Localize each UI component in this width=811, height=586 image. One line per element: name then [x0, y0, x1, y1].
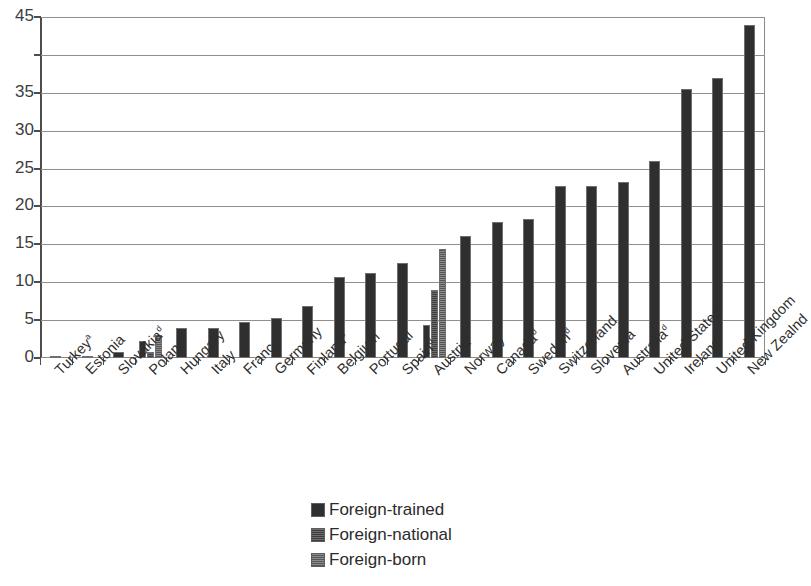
bar-foreign-trained: [681, 89, 692, 358]
legend-item: Foreign-trained: [311, 497, 452, 522]
legend-item: Foreign-national: [311, 522, 452, 547]
gridline: [40, 131, 765, 132]
y-axis-tick-label: 25: [0, 158, 34, 178]
chart-legend: Foreign-trainedForeign-nationalForeign-b…: [311, 497, 452, 572]
bar-foreign-trained: [239, 322, 250, 358]
y-axis-tick: [34, 16, 41, 18]
gridline: [40, 93, 765, 94]
legend-label: Foreign-national: [329, 525, 452, 545]
y-axis-tick-label: 15: [0, 233, 34, 253]
y-axis-tick: [34, 130, 41, 132]
y-axis-tick: [34, 243, 41, 245]
gridline: [40, 17, 765, 18]
y-axis-tick-label: 10: [0, 271, 34, 291]
y-axis-tick: [34, 205, 41, 207]
bar-foreign-trained: [744, 25, 755, 358]
y-axis-tick-label: 30: [0, 120, 34, 140]
legend-swatch-foreign-born: [311, 553, 325, 567]
bar-foreign-born: [439, 249, 446, 358]
y-axis-tick: [34, 319, 41, 321]
legend-item: Foreign-born: [311, 547, 452, 572]
legend-swatch-foreign-trained: [311, 503, 325, 517]
legend-swatch-foreign-national: [311, 528, 325, 542]
y-axis-tick-label: 35: [0, 82, 34, 102]
legend-label: Foreign-born: [329, 550, 426, 570]
y-axis-tick-label: 0: [0, 347, 34, 367]
y-axis-tick: [34, 281, 41, 283]
y-axis-tick: [34, 168, 41, 170]
gridline: [40, 55, 765, 56]
legend-label: Foreign-trained: [329, 500, 444, 520]
x-axis-tick: [40, 358, 41, 365]
y-axis-tick-label: 5: [0, 309, 34, 329]
y-axis-tick-label: 45: [0, 6, 34, 26]
y-axis-tick: [34, 92, 41, 94]
y-axis-tick: [34, 54, 41, 56]
y-axis-tick-label: 20: [0, 195, 34, 215]
